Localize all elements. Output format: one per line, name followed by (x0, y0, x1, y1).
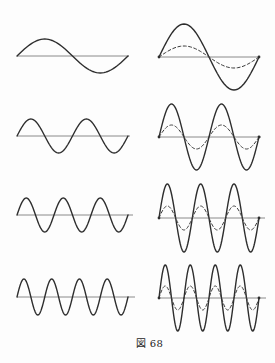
wave-panel-left-row1 (16, 33, 130, 79)
endpoint-dot (158, 136, 161, 139)
endpoint-dot (258, 297, 261, 300)
endpoint-dot (258, 136, 261, 139)
endpoint-dot (158, 217, 161, 220)
wave-panel-right-row2 (158, 98, 262, 176)
wave-panel-left-row3 (16, 192, 134, 238)
wave-panel-right-row1 (158, 18, 261, 96)
wave-panel-left-row4 (16, 273, 136, 321)
endpoint-dot (258, 217, 261, 220)
endpoint-dot (158, 56, 161, 59)
figure-caption: 図 68 (0, 335, 275, 350)
wave-panel-right-row3 (158, 178, 266, 258)
endpoint-dot (158, 297, 161, 300)
wave-panel-right-row4 (158, 259, 267, 337)
figure-page: 図 68 (0, 0, 275, 363)
endpoint-dot (258, 56, 261, 59)
wave-panel-left-row2 (16, 113, 131, 159)
